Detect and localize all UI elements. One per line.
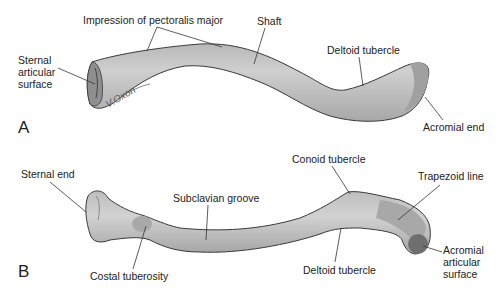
label-deltoid-tubercle-a: Deltoid tubercle: [327, 44, 400, 56]
label-line: Sternal: [18, 54, 55, 66]
panel-letter-b: B: [18, 262, 29, 282]
bone-illustrations: V.Oxon: [0, 0, 502, 295]
label-sternal-articular-surface: Sternal articular surface: [18, 54, 55, 90]
label-conoid-tubercle: Conoid tubercle: [292, 153, 366, 165]
label-line: articular: [443, 256, 484, 268]
label-sternal-end: Sternal end: [21, 168, 75, 180]
label-costal-tuberosity: Costal tuberosity: [90, 270, 168, 282]
label-line: surface: [18, 78, 55, 90]
label-subclavian-groove: Subclavian groove: [173, 192, 259, 204]
label-shaft: Shaft: [257, 15, 282, 27]
label-line: articular: [18, 66, 55, 78]
clavicle-figure: V.Oxon: [0, 0, 502, 295]
label-deltoid-tubercle-b: Deltoid tubercle: [303, 264, 376, 276]
label-line: surface: [443, 268, 484, 280]
label-acromial-articular-surface: Acromial articular surface: [443, 244, 484, 280]
label-impression-pectoralis-major: Impression of pectoralis major: [83, 14, 223, 26]
label-line: Acromial: [443, 244, 484, 256]
label-trapezoid-line: Trapezoid line: [418, 170, 484, 182]
label-acromial-end: Acromial end: [423, 121, 484, 133]
panel-letter-a: A: [18, 118, 29, 138]
